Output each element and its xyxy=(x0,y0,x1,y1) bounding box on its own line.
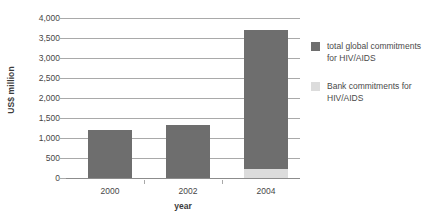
legend-item-total-global: total global commitments for HIV/AIDS xyxy=(311,41,423,64)
bar-2002 xyxy=(166,125,210,178)
legend-swatch-total-global-icon xyxy=(311,42,320,51)
bar-2004-bank-segment xyxy=(244,169,288,178)
x-axis-minor-tick xyxy=(222,180,223,184)
legend-item-bank: Bank commitments for HIV/AIDS xyxy=(311,81,423,104)
plot-area xyxy=(66,18,300,179)
bar-2000 xyxy=(88,130,132,178)
x-tick-label-2004: 2004 xyxy=(257,186,276,196)
chart-figure: US$ million 4,000 3,500 3,000 2,500 2,00… xyxy=(0,0,426,222)
y-tick-label: 2,000 xyxy=(39,94,60,103)
y-axis-title-label: US$ million xyxy=(6,66,16,113)
chart-legend: total global commitments for HIV/AIDS Ba… xyxy=(311,41,423,121)
x-axis-title: year xyxy=(66,201,300,211)
legend-label-total-global: total global commitments for HIV/AIDS xyxy=(327,41,423,64)
y-tick-label: 3,500 xyxy=(39,34,60,43)
gridline-4000 xyxy=(66,18,300,19)
x-tick-label-2000: 2000 xyxy=(101,186,120,196)
y-tick-label: 1,000 xyxy=(39,134,60,143)
y-tick-label: 500 xyxy=(46,154,60,163)
x-axis-tick-labels: 2000 2002 2004 xyxy=(66,186,300,200)
y-tick-label: 1,500 xyxy=(39,114,60,123)
x-axis-line xyxy=(66,178,300,179)
y-axis-title: US$ million xyxy=(0,0,22,180)
y-tick-label: 2,500 xyxy=(39,74,60,83)
x-tick-label-2002: 2002 xyxy=(179,186,198,196)
x-axis-minor-tick xyxy=(144,180,145,184)
y-axis-tick-labels: 4,000 3,500 3,000 2,500 2,000 1,500 1,00… xyxy=(20,18,60,179)
legend-swatch-bank-icon xyxy=(311,82,320,91)
bar-2004 xyxy=(244,30,288,178)
y-tick-label: 3,000 xyxy=(39,54,60,63)
legend-label-bank: Bank commitments for HIV/AIDS xyxy=(327,81,423,104)
y-tick-label: 4,000 xyxy=(39,14,60,23)
